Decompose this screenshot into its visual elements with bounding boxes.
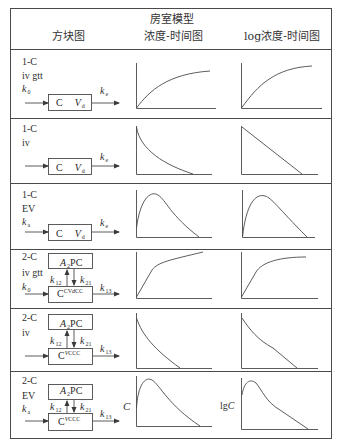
block-diagram-1c-iv-gtt xyxy=(25,95,119,111)
block-diagram-2c-iv-gtt xyxy=(25,254,119,303)
log-plot-1c-ev xyxy=(243,190,316,238)
conc-plot-1c-iv-gtt xyxy=(137,63,217,109)
block-diagram-1c-ev xyxy=(25,225,119,241)
log-plot-2c-iv xyxy=(242,313,319,369)
conc-plot-2c-ev xyxy=(137,376,213,427)
block-diagram-1c-iv xyxy=(25,159,119,175)
conc-plot-2c-iv xyxy=(137,313,213,369)
diagrams-and-curves xyxy=(0,0,341,448)
block-diagram-2c-iv xyxy=(25,315,119,365)
compartment-model-table: 房室模型 方块图 浓度-时间图 log浓度-时间图 1-C iv gtt k0 … xyxy=(0,0,341,448)
block-diagram-2c-ev xyxy=(25,385,119,431)
conc-plot-2c-iv-gtt xyxy=(137,252,213,299)
log-plot-2c-ev xyxy=(242,378,319,430)
log-plot-2c-iv-gtt xyxy=(242,252,319,299)
log-plot-1c-iv-gtt xyxy=(242,63,323,109)
log-plot-1c-iv xyxy=(242,126,319,175)
conc-plot-1c-ev xyxy=(137,190,213,238)
conc-plot-1c-iv xyxy=(137,126,213,175)
